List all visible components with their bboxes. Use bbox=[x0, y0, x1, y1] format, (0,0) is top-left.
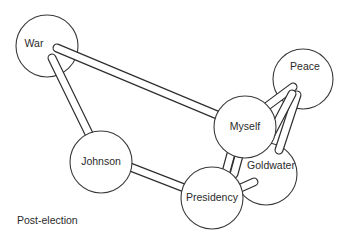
node-label-goldwater: Goldwater bbox=[247, 159, 295, 171]
diagram-caption: Post-election bbox=[17, 214, 78, 226]
node-label-peace: Peace bbox=[290, 60, 320, 72]
link-johnson-presidency bbox=[125, 165, 192, 191]
association-diagram: War Peace Myself Johnson Goldwater Presi… bbox=[0, 0, 349, 243]
link-war-myself bbox=[57, 48, 222, 117]
node-label-johnson: Johnson bbox=[81, 155, 121, 167]
link-war-johnson bbox=[52, 58, 92, 140]
node-label-war: War bbox=[25, 37, 44, 49]
node-label-myself: Myself bbox=[230, 120, 260, 132]
node-label-presidency: Presidency bbox=[186, 191, 239, 203]
